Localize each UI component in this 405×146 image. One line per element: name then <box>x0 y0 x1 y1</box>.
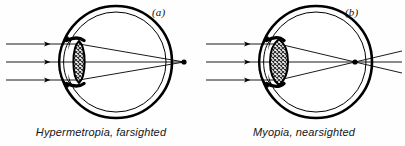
panel-label-a: (a) <box>152 6 165 18</box>
eye-refraction-figure: (a) Hypermetropia, farsighted <box>0 0 405 146</box>
crystalline-lens <box>73 41 84 83</box>
panel-myopia: (b) Myopia, nearsighted <box>203 0 405 146</box>
crystalline-lens <box>270 39 288 85</box>
focal-point-marker <box>181 59 186 64</box>
focal-point-marker <box>352 59 357 64</box>
panel-hypermetropia: (a) Hypermetropia, farsighted <box>0 0 202 146</box>
panel-label-b: (b) <box>345 6 358 18</box>
caption-hypermetropia: Hypermetropia, farsighted <box>0 126 202 138</box>
eye-diagram-hypermetropia <box>0 0 202 146</box>
caption-myopia: Myopia, nearsighted <box>203 126 405 138</box>
eye-diagram-myopia <box>203 0 405 146</box>
